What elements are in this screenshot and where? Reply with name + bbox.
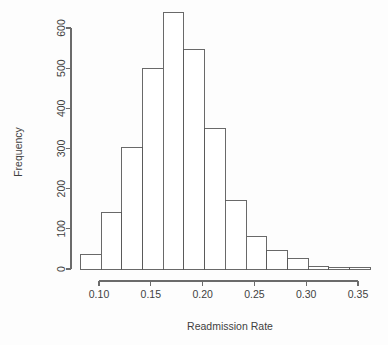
y-axis-tick-label: 500 [55,59,67,77]
histogram-bar [267,251,288,269]
histogram-bar [163,13,184,269]
x-axis-tick-label: 0.20 [192,288,213,300]
x-axis-tick-label: 0.25 [244,288,265,300]
y-axis-tick-label: 400 [55,99,67,117]
x-axis-tick-label: 0.35 [348,288,369,300]
bars-group [80,13,370,269]
y-axis-tick-label: 100 [55,220,67,238]
histogram-bar [288,258,309,269]
y-axis-tick-label: 0 [55,266,67,272]
histogram-bar [122,147,143,269]
x-axis-tick-label: 0.15 [141,288,162,300]
y-axis: 0100200300400500600 [55,19,71,272]
histogram-bar [101,213,122,269]
chart-canvas: 0100200300400500600 0.100.150.200.250.30… [0,0,388,345]
histogram-bar [205,128,226,269]
y-axis-tick-label: 600 [55,19,67,37]
histogram-bar [80,255,101,269]
x-axis-title: Readmission Rate [187,320,273,332]
histogram-plot: 0100200300400500600 0.100.150.200.250.30… [0,0,388,345]
x-axis: 0.100.150.200.250.300.35 [89,281,369,300]
histogram-bar [225,201,246,269]
y-axis-title: Frequency [12,126,24,176]
histogram-bar [329,268,350,269]
y-axis-tick-label: 300 [55,140,67,158]
histogram-bar [350,268,371,269]
histogram-bar [143,69,164,269]
histogram-bar [246,236,267,269]
histogram-bar [184,50,205,269]
x-axis-tick-label: 0.30 [296,288,317,300]
histogram-bar [308,267,329,269]
x-axis-tick-label: 0.10 [89,288,110,300]
y-axis-tick-label: 200 [55,180,67,198]
